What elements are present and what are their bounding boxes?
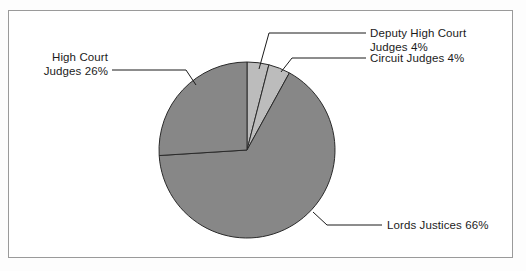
leader-line-deputy-high-court-judges [259,33,366,69]
label-high-court-judges-line2: Judges 26% [44,65,108,77]
figure-container: Deputy High Court Judges 4% Circuit Judg… [0,0,526,271]
label-deputy-high-court-judges-line1: Deputy High Court [370,27,467,39]
pie-slice-high-court-judges[interactable] [159,62,247,156]
label-high-court-judges-line1: High Court [52,51,109,63]
leader-line-lords-justices [313,212,382,225]
label-lords-justices: Lords Justices 66% [387,219,489,231]
leader-line-high-court-judges [112,70,196,85]
label-circuit-judges: Circuit Judges 4% [370,52,464,64]
leader-line-circuit-judges [281,58,366,72]
pie-chart: Deputy High Court Judges 4% Circuit Judg… [0,0,526,271]
